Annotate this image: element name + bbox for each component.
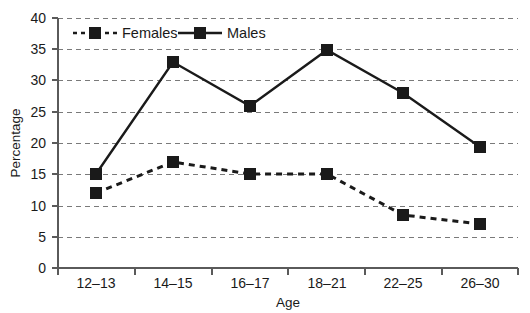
data-point-marker [167,56,179,68]
y-tick-label: 0 [38,260,46,276]
line-chart: 40 35 30 25 20 15 10 5 0 12–13 14–15 16–… [0,0,530,313]
x-tick-label: 22–25 [384,275,423,291]
y-tick-label: 40 [30,10,46,26]
x-tick-label: 18–21 [308,275,347,291]
data-point-marker [90,187,102,199]
x-tick-label: 14–15 [154,275,193,291]
x-tick-label: 12–13 [77,275,116,291]
y-tick-label: 35 [30,41,46,57]
y-tick-label: 25 [30,104,46,120]
data-point-marker [244,168,256,180]
y-tick-label: 10 [30,198,46,214]
x-tick-label: 16–17 [231,275,270,291]
chart-container: 40 35 30 25 20 15 10 5 0 12–13 14–15 16–… [0,0,530,313]
data-point-marker [474,141,486,153]
data-point-marker [397,209,409,221]
x-axis-title: Age [276,295,300,310]
legend-square-marker-icon [194,27,206,39]
chart-background [0,0,530,313]
legend-item-label: Males [227,25,266,41]
legend-item-label: Females [122,25,178,41]
y-tick-label: 30 [30,72,46,88]
x-tick-label: 26–30 [461,275,500,291]
data-point-marker [90,168,102,180]
y-axis-title: Percentage [8,108,23,177]
y-tick-label: 5 [38,229,46,245]
data-point-marker [397,87,409,99]
data-point-marker [321,44,333,56]
data-point-marker [244,100,256,112]
y-tick-label: 20 [30,135,46,151]
data-point-marker [321,168,333,180]
data-point-marker [474,218,486,230]
y-tick-label: 15 [30,166,46,182]
legend-square-marker-icon [89,27,101,39]
data-point-marker [167,156,179,168]
